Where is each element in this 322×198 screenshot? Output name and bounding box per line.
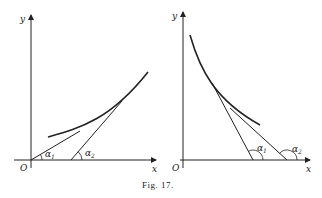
right-axis-y-label: y [171,11,178,21]
right-origin-label: O [172,163,180,173]
right-tangent-1 [212,83,253,160]
right-curve [190,35,260,125]
right-angle-1-label: α1 [257,143,267,154]
right-panel [180,12,310,168]
left-angle-arc-1 [41,155,43,160]
right-axis-x-label: x [306,164,311,174]
left-origin-label: O [20,163,28,173]
figure-caption: Fig. 17. [142,180,174,190]
left-axis-x-label: x [152,164,157,174]
right-angle-2-label: α2 [292,144,302,155]
left-angle-2-label: α2 [85,148,95,159]
left-angle-arc-2 [78,152,82,160]
figure-17: y x O α1 α2 y x O α1 α2 Fig. 17. [0,0,322,198]
left-angle-1-label: α1 [45,149,55,160]
left-curve [48,72,148,137]
left-panel [14,15,156,168]
left-axis-y-label: y [19,14,26,24]
left-tangent-2 [71,101,122,160]
